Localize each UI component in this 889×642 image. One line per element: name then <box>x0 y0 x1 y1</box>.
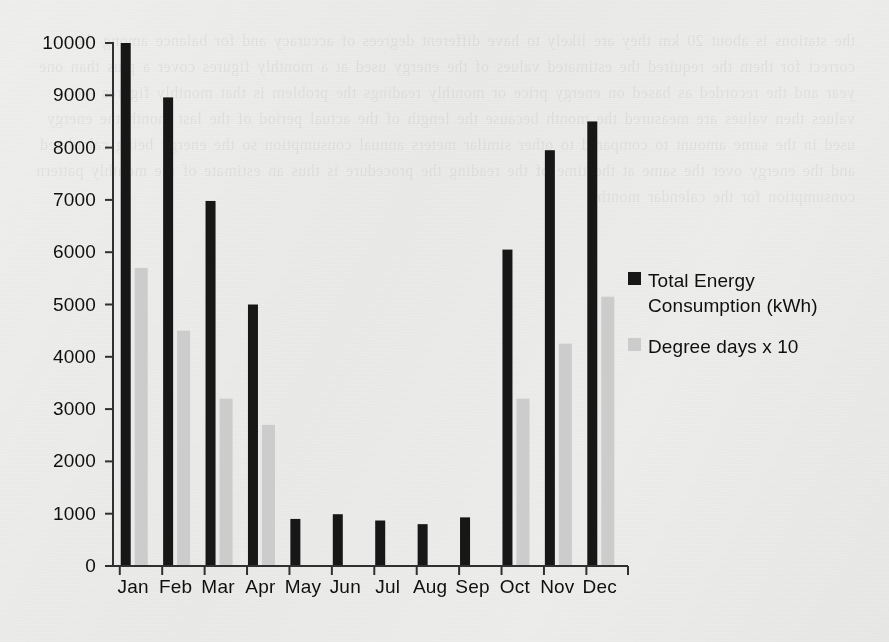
y-axis-tick-label: 1000 <box>53 503 96 525</box>
bar-degree-days <box>220 399 233 566</box>
x-axis-tick-label: Aug <box>413 576 447 598</box>
bar-total-energy <box>502 250 512 566</box>
x-axis-tick-label: Dec <box>583 576 617 598</box>
x-axis-tick-label: Jul <box>375 576 400 598</box>
legend-item-degree-days: Degree days x 10 <box>628 334 878 359</box>
x-axis-tick-labels: JanFebMarAprMayJunJulAugSepOctNovDec <box>0 576 889 610</box>
chart-legend: Total Energy Consumption (kWh) Degree da… <box>628 268 878 365</box>
bar-degree-days <box>262 425 275 566</box>
x-axis-tick-label: Jun <box>330 576 361 598</box>
bars-layer <box>121 43 615 566</box>
bar-total-energy <box>248 305 258 567</box>
x-axis-tick-label: Sep <box>455 576 489 598</box>
bar-total-energy <box>460 517 470 566</box>
bar-chart: 0100020003000400050006000700080009000100… <box>0 0 889 642</box>
x-axis-tick-label: Nov <box>540 576 574 598</box>
bar-degree-days <box>177 331 190 566</box>
bar-total-energy <box>418 524 428 566</box>
x-axis-tick-label: Mar <box>201 576 234 598</box>
legend-label-total-energy: Total Energy Consumption (kWh) <box>648 268 848 318</box>
bar-total-energy <box>545 150 555 566</box>
y-axis-tick-label: 3000 <box>53 398 96 420</box>
y-axis-tick-label: 8000 <box>53 137 96 159</box>
x-axis-tick-label: Apr <box>245 576 275 598</box>
x-axis-tick-label: Jan <box>118 576 149 598</box>
bar-degree-days <box>601 297 614 566</box>
legend-swatch-square-icon <box>628 272 641 285</box>
bar-total-energy <box>587 121 597 566</box>
y-axis-tick-label: 9000 <box>53 84 96 106</box>
bar-degree-days <box>559 344 572 566</box>
bar-total-energy <box>290 519 300 566</box>
x-axis-tick-label: Feb <box>159 576 192 598</box>
y-axis-tick-label: 7000 <box>53 189 96 211</box>
y-axis-tick-label: 5000 <box>53 294 96 316</box>
bar-total-energy <box>206 201 216 566</box>
bar-total-energy <box>121 43 131 566</box>
y-axis-tick-labels: 0100020003000400050006000700080009000100… <box>0 0 96 642</box>
legend-label-degree-days: Degree days x 10 <box>648 334 799 359</box>
bar-total-energy <box>375 520 385 566</box>
bar-total-energy <box>163 97 173 566</box>
legend-swatch-square-icon <box>628 338 641 351</box>
x-axis-tick-label: May <box>285 576 322 598</box>
legend-item-total-energy: Total Energy Consumption (kWh) <box>628 268 878 318</box>
bar-total-energy <box>333 514 343 566</box>
x-axis-tick-label: Oct <box>500 576 530 598</box>
y-axis-tick-label: 6000 <box>53 241 96 263</box>
bar-degree-days <box>135 268 148 566</box>
y-axis-tick-label: 2000 <box>53 450 96 472</box>
y-axis-tick-label: 10000 <box>42 32 96 54</box>
bar-degree-days <box>516 399 529 566</box>
y-axis-tick-label: 4000 <box>53 346 96 368</box>
y-axis-tick-label: 0 <box>85 555 96 577</box>
